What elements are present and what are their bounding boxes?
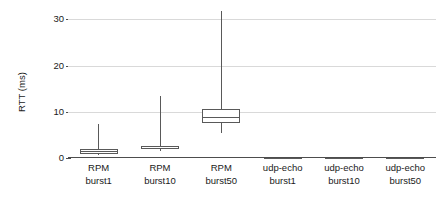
gridline-20: [68, 66, 436, 67]
x-category-line2: burst1: [68, 175, 129, 188]
x-category-line2: burst1: [252, 175, 313, 188]
x-category-label: udp-echoburst10: [313, 162, 374, 187]
y-axis-ticks: 0102030: [36, 10, 64, 158]
lower-whisker: [221, 123, 222, 133]
lower-whisker: [98, 154, 99, 155]
x-category-label: RPMburst50: [191, 162, 252, 187]
median-line: [202, 117, 240, 118]
x-category-line1: udp-echo: [375, 162, 436, 175]
x-category-label: RPMburst1: [68, 162, 129, 187]
lower-whisker: [160, 149, 161, 150]
box-plot-group: [141, 10, 179, 158]
x-category-label: RPMburst10: [129, 162, 190, 187]
y-tick-label-0: 0: [38, 153, 64, 163]
median-line: [80, 151, 118, 152]
box-plot-group: [386, 10, 424, 158]
x-category-line1: RPM: [68, 162, 129, 175]
x-category-line1: RPM: [129, 162, 190, 175]
median-line: [141, 146, 179, 147]
x-category-line2: burst50: [375, 175, 436, 188]
x-category-line1: udp-echo: [313, 162, 374, 175]
upper-whisker: [98, 124, 99, 149]
x-category-label: udp-echoburst50: [375, 162, 436, 187]
y-tick-label-20: 20: [38, 61, 64, 71]
x-category-line2: burst50: [191, 175, 252, 188]
x-category-label: udp-echoburst1: [252, 162, 313, 187]
upper-whisker: [221, 11, 222, 110]
plot-area: [68, 10, 436, 158]
y-tick-label-30: 30: [38, 14, 64, 24]
box-plot-group: [80, 10, 118, 158]
upper-whisker: [160, 96, 161, 145]
box-plot-group: [264, 10, 302, 158]
x-category-line2: burst10: [129, 175, 190, 188]
x-axis-labels: RPMburst1RPMburst10RPMburst50udp-echobur…: [68, 162, 436, 196]
x-category-line1: udp-echo: [252, 162, 313, 175]
y-tick-label-10: 10: [38, 107, 64, 117]
gridline-30: [68, 19, 436, 20]
x-axis-line: [68, 157, 436, 158]
x-category-line1: RPM: [191, 162, 252, 175]
boxplot-chart: RTT (ms) 0102030 RPMburst1RPMburst10RPMb…: [0, 0, 442, 198]
x-category-line2: burst10: [313, 175, 374, 188]
y-axis-title: RTT (ms): [16, 52, 27, 132]
gridline-10: [68, 112, 436, 113]
box-plot-group: [202, 10, 240, 158]
box-plot-group: [325, 10, 363, 158]
